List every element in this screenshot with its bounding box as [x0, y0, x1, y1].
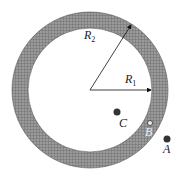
label-c: C: [119, 116, 128, 130]
label-b: B: [145, 125, 153, 139]
label-r1: R1: [124, 72, 136, 88]
label-r2: R2: [83, 28, 95, 44]
annulus-diagram: R2 R1 C B A: [0, 0, 182, 180]
diagram-canvas: R2 R1 C B A: [0, 0, 182, 180]
label-a: A: [162, 142, 171, 156]
point-c: [114, 109, 121, 116]
